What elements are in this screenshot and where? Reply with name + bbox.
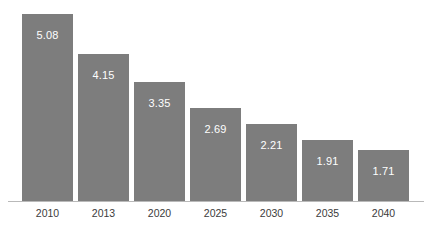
tick-label-2013: 2013 <box>78 208 129 219</box>
bar-group: 5.08 <box>22 14 73 201</box>
bar-group: 3.35 <box>134 82 185 201</box>
bar-chart: 5.08 4.15 3.35 2.69 2.21 1.91 1.71 <box>0 0 438 230</box>
bar-2035[interactable] <box>302 140 353 201</box>
tick-label-2020: 2020 <box>134 208 185 219</box>
bar-group: 1.91 <box>302 140 353 201</box>
bar-group: 4.15 <box>78 54 129 201</box>
bar-group: 2.69 <box>190 108 241 201</box>
x-axis-line <box>8 201 424 202</box>
tick-label-2025: 2025 <box>190 208 241 219</box>
bar-value-2020: 3.35 <box>134 98 185 109</box>
bar-value-2025: 2.69 <box>190 124 241 135</box>
bar-value-2010: 5.08 <box>22 30 73 41</box>
bar-group: 2.21 <box>246 124 297 201</box>
tick-label-2030: 2030 <box>246 208 297 219</box>
bar-group: 1.71 <box>358 150 409 201</box>
bar-2010[interactable] <box>22 14 73 201</box>
bar-2030[interactable] <box>246 124 297 201</box>
x-axis-tick-labels: 2010 2013 2020 2025 2030 2035 2040 <box>0 205 438 230</box>
tick-label-2035: 2035 <box>302 208 353 219</box>
bar-value-2013: 4.15 <box>78 70 129 81</box>
bar-2025[interactable] <box>190 108 241 201</box>
tick-label-2010: 2010 <box>22 208 73 219</box>
bar-value-2035: 1.91 <box>302 156 353 167</box>
bar-value-2030: 2.21 <box>246 140 297 151</box>
plot-area: 5.08 4.15 3.35 2.69 2.21 1.91 1.71 <box>0 0 438 201</box>
bar-value-2040: 1.71 <box>358 166 409 177</box>
tick-label-2040: 2040 <box>358 208 409 219</box>
